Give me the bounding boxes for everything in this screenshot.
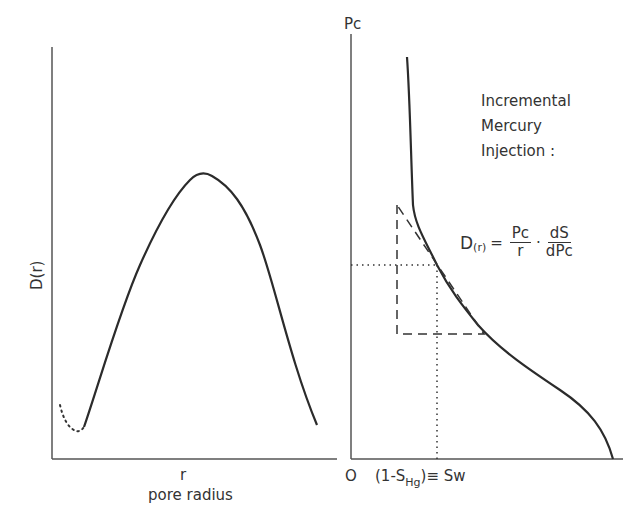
formula-lhs-subscript: (r): [473, 241, 486, 254]
formula-lhs: D: [460, 233, 473, 253]
annotation-line-2: Mercury: [481, 117, 542, 135]
left-x-axis-label: r: [180, 466, 186, 484]
fraction1-numerator: Pc: [510, 225, 531, 243]
right-y-axis-label: Pc: [344, 15, 361, 33]
fraction-ds-over-dpc: dS dPc: [546, 225, 573, 260]
diagram-canvas: [0, 0, 638, 524]
annotation-line-1: Incremental: [481, 92, 571, 110]
distribution-formula: D(r) = Pc r · dS dPc: [460, 225, 576, 260]
distribution-dotted-tail: [60, 405, 84, 431]
left-y-axis-label: D(r): [28, 261, 46, 290]
origin-label: O: [345, 467, 357, 485]
fraction1-denominator: r: [517, 243, 523, 260]
left-x-axis-caption: pore radius: [148, 486, 233, 504]
formula-dot: ·: [536, 234, 541, 252]
x-label-prefix: (1-S: [375, 467, 405, 485]
right-x-axis-label: (1-SHg)≡ Sw: [375, 467, 466, 485]
x-label-suffix: )≡ Sw: [421, 467, 466, 485]
x-label-subscript: Hg: [405, 476, 420, 489]
formula-equals: =: [490, 234, 503, 252]
fraction2-numerator: dS: [548, 225, 571, 243]
pore-size-distribution-curve: [84, 173, 317, 427]
fraction-pc-over-r: Pc r: [510, 225, 531, 260]
annotation-line-3: Injection :: [481, 142, 555, 160]
fraction2-denominator: dPc: [546, 243, 573, 260]
